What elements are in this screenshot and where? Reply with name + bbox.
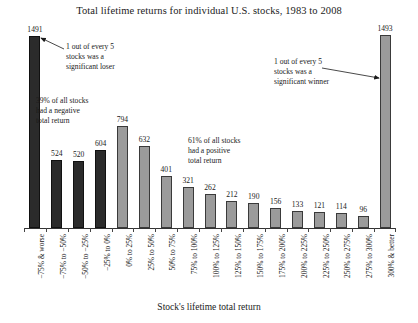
x-axis-tick-label: 0% to 25% bbox=[126, 234, 133, 267]
bar-value-label: 1491 bbox=[27, 25, 42, 34]
bar bbox=[358, 216, 369, 228]
bar bbox=[270, 208, 281, 228]
bar-value-label: 632 bbox=[139, 135, 150, 144]
x-axis-tick-label: 225% to 250% bbox=[323, 234, 330, 278]
x-axis-tick-label: 125% to 150% bbox=[235, 234, 242, 278]
bar bbox=[380, 35, 391, 228]
bar-value-label: 321 bbox=[182, 176, 193, 185]
bar-value-label: 212 bbox=[226, 190, 237, 199]
x-axis-tick-label: 250% to 275% bbox=[344, 234, 351, 278]
x-axis-tick bbox=[133, 228, 134, 232]
annotation-significant-loser: 1 out of every 5 stocks was a significan… bbox=[66, 42, 115, 72]
x-axis-tick bbox=[24, 228, 25, 232]
x-axis-tick-label: 75% to 100% bbox=[191, 234, 198, 274]
bar bbox=[336, 213, 347, 228]
bar bbox=[248, 203, 259, 228]
bar bbox=[292, 211, 303, 228]
x-axis-tick bbox=[395, 228, 396, 232]
bar bbox=[161, 176, 172, 228]
x-axis-tick bbox=[199, 228, 200, 232]
bar-value-label: 156 bbox=[270, 197, 281, 206]
bar-value-label: 114 bbox=[336, 202, 347, 211]
bar-value-label: 121 bbox=[314, 201, 325, 210]
x-axis-ticks bbox=[24, 228, 396, 233]
x-axis-tick bbox=[330, 228, 331, 232]
x-axis-tick-labels: −75% & worse−75% to −50%−50% to −25%−25%… bbox=[24, 234, 396, 296]
bar bbox=[226, 201, 237, 228]
bar-value-label: 133 bbox=[292, 200, 303, 209]
x-axis-tick-label: 150% to 175% bbox=[257, 234, 264, 278]
x-axis-tick-label: 200% to 225% bbox=[301, 234, 308, 278]
x-axis-tick bbox=[112, 228, 113, 232]
annotation-significant-winner: 1 out of every 5 stocks was a significan… bbox=[274, 57, 329, 87]
bar bbox=[139, 146, 150, 228]
bar-value-label: 1493 bbox=[377, 24, 392, 33]
x-axis-tick-label: −25% to 0% bbox=[104, 234, 111, 271]
x-axis-tick bbox=[90, 228, 91, 232]
bar bbox=[205, 194, 216, 228]
bar bbox=[95, 150, 106, 228]
x-axis-tick bbox=[177, 228, 178, 232]
chart-title: Total lifetime returns for individual U.… bbox=[0, 5, 418, 16]
x-axis-tick-label: −75% & worse bbox=[38, 234, 45, 279]
x-axis-title: Stock's lifetime total return bbox=[0, 302, 418, 312]
x-axis-tick bbox=[243, 228, 244, 232]
x-axis-tick-label: 175% to 200% bbox=[279, 234, 286, 278]
bar-value-label: 524 bbox=[51, 149, 62, 158]
x-axis-tick-label: −50% to −25% bbox=[82, 234, 89, 279]
x-axis-tick bbox=[68, 228, 69, 232]
x-axis-tick-label: 100% to 125% bbox=[213, 234, 220, 278]
bar bbox=[314, 212, 325, 228]
x-axis-tick bbox=[352, 228, 353, 232]
chart-container: Total lifetime returns for individual U.… bbox=[0, 0, 418, 323]
bar-value-label: 794 bbox=[117, 115, 128, 124]
bar bbox=[73, 161, 84, 228]
bar bbox=[183, 187, 194, 228]
x-axis-tick-label: 275% to 300% bbox=[366, 234, 373, 278]
x-axis-tick-label: 50% to 75% bbox=[169, 234, 176, 271]
bar bbox=[51, 160, 62, 228]
x-axis-tick bbox=[155, 228, 156, 232]
annotation-positive-return: 61% of all stocks had a positive total r… bbox=[188, 136, 241, 166]
x-axis-tick bbox=[221, 228, 222, 232]
x-axis-tick bbox=[287, 228, 288, 232]
bar-value-label: 190 bbox=[248, 192, 259, 201]
bar bbox=[117, 126, 128, 228]
x-axis-tick-label: 25% to 50% bbox=[148, 234, 155, 271]
x-axis-tick bbox=[308, 228, 309, 232]
annotation-negative-return: 39% of all stocks had a negative total r… bbox=[36, 96, 89, 126]
x-axis-tick-label: 300% & better bbox=[388, 234, 395, 278]
bar-value-label: 604 bbox=[95, 139, 106, 148]
x-axis-tick bbox=[374, 228, 375, 232]
x-axis-tick bbox=[46, 228, 47, 232]
bar-value-label: 520 bbox=[73, 150, 84, 159]
bar bbox=[29, 36, 40, 228]
x-axis-tick-label: −75% to −50% bbox=[60, 234, 67, 279]
x-axis-tick bbox=[265, 228, 266, 232]
bar-value-label: 262 bbox=[204, 183, 215, 192]
bar-value-label: 96 bbox=[359, 205, 367, 214]
bar-value-label: 401 bbox=[161, 165, 172, 174]
